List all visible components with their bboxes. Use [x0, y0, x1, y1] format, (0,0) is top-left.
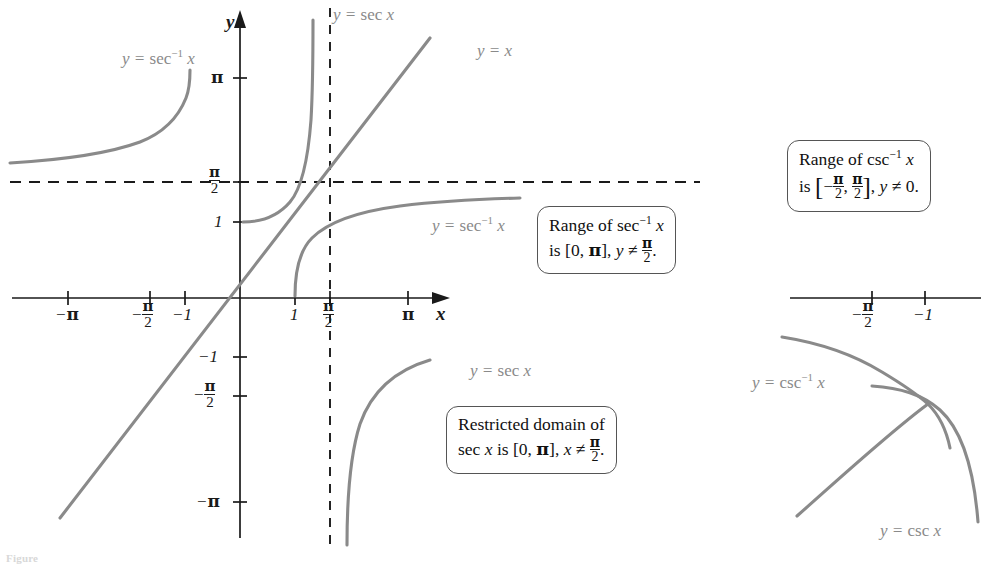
curve-label-csc-inverse: y = csc−1 x	[752, 372, 825, 391]
curve-cosecant-branch	[797, 404, 928, 516]
right-x-tick-minus-pi-over-2: −π2	[851, 300, 873, 332]
callout-range-csc-inverse: Range of csc−1 x is [−π2, π2], y ≠ 0.	[787, 140, 931, 212]
figure-caption: Figure	[6, 552, 38, 564]
curve-label-cosecant: y = csc x	[880, 522, 941, 539]
callout-line-1: Range of csc−1 x	[799, 147, 919, 171]
right-panel-graph	[0, 0, 981, 566]
callout-line-2: is [−π2, π2], y ≠ 0.	[799, 171, 919, 204]
right-x-tick-minus-1: −1	[913, 306, 933, 323]
right-panel-x-axis	[790, 291, 981, 305]
figure-inverse-secant-cosecant: y x −π −π2 −1 1 π2 π π π2 1 −1 −π2 −π y …	[0, 0, 981, 566]
